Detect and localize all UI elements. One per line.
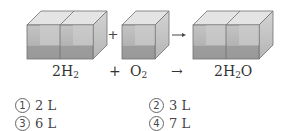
equation-plus-sign: + xyxy=(109,63,121,79)
product-water-label: 2H2O xyxy=(214,63,252,79)
reactant-oxygen-label: O2 xyxy=(130,63,147,79)
option-2-text: 3 L xyxy=(169,98,190,113)
water-vapor-block xyxy=(193,11,273,59)
hydrogen-formula-text: 2H xyxy=(52,63,73,79)
block2-inner-back xyxy=(135,25,155,45)
block3-inner-back-right xyxy=(239,25,259,45)
hydrogen-gas-block xyxy=(27,11,107,59)
oxygen-formula-text: O xyxy=(130,63,141,79)
option-2-marker: 2 xyxy=(149,98,164,113)
option-4-marker: 4 xyxy=(149,116,164,131)
option-1-marker: 1 xyxy=(15,98,30,113)
option-1-text: 2 L xyxy=(35,98,56,113)
option-4-text: 7 L xyxy=(169,116,190,131)
block3-inner-back-left xyxy=(206,25,226,45)
water-formula-suffix: O xyxy=(241,63,252,79)
option-2[interactable]: 23 L xyxy=(149,98,190,114)
reactant-hydrogen-label: 2H2 xyxy=(52,63,79,79)
option-3[interactable]: 36 L xyxy=(15,116,56,131)
oxygen-gas-block xyxy=(122,11,169,59)
option-3-text: 6 L xyxy=(35,116,56,131)
equation-arrow: → xyxy=(171,63,183,79)
option-1[interactable]: 12 L xyxy=(15,98,56,114)
reaction-arrow-icon xyxy=(172,33,186,37)
option-3-marker: 3 xyxy=(15,116,30,131)
option-4[interactable]: 47 L xyxy=(149,116,190,131)
reaction-volume-figure: + xyxy=(0,0,289,66)
block1-inner-back-right xyxy=(73,25,93,45)
block1-inner-back-left xyxy=(40,25,60,45)
oxygen-subscript: 2 xyxy=(141,70,147,80)
hydrogen-subscript: 2 xyxy=(73,70,79,80)
water-formula-prefix: 2H xyxy=(214,63,235,79)
plus-operator-icon: + xyxy=(108,27,119,42)
